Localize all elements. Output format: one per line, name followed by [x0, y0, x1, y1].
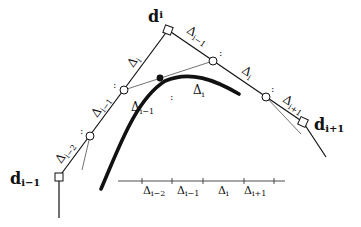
separators: : : : : :	[80, 47, 274, 136]
label-left-lower-delta: Δi−2	[52, 139, 78, 167]
label-curve-inner-right: Δi	[193, 83, 205, 99]
knot-label: Δi	[218, 184, 229, 198]
separator-left-upper: :	[113, 79, 116, 90]
label-right-lower-delta: Δi+1	[279, 92, 307, 118]
separator-left-lower: :	[80, 125, 83, 136]
knot-label: Δi+1	[244, 184, 266, 198]
label-left-upper-delta: Δi	[124, 52, 144, 71]
control-point-d-i-plus-1	[298, 117, 309, 128]
separator-curve: :	[170, 91, 173, 102]
curve-point-dot	[157, 75, 164, 82]
control-point-d-i	[163, 25, 173, 35]
label-left-mid-delta: Δi−1	[88, 93, 114, 121]
knot-label: Δi−1	[177, 184, 199, 198]
division-point-right-upper	[209, 57, 217, 65]
knot-label: Δi−2	[143, 184, 165, 198]
label-d-i-minus-1: di−1	[10, 169, 40, 188]
division-point-left-lower	[86, 132, 94, 140]
division-point-right-lower	[262, 93, 270, 101]
control-point-d-i-minus-1	[55, 173, 63, 181]
separator-right-lower: :	[271, 83, 274, 94]
separator-right-upper: :	[219, 47, 222, 58]
label-right-upper-delta: Δi−1	[183, 23, 211, 49]
label-d-i-plus-1: di+1	[314, 115, 344, 134]
division-point-left-upper	[120, 86, 128, 94]
label-d-i: di	[148, 7, 163, 26]
spline-diagram: di di−1 di+1 Δi Δi−1 Δi−2 Δi−1 Δi Δi+1 :…	[0, 0, 361, 227]
